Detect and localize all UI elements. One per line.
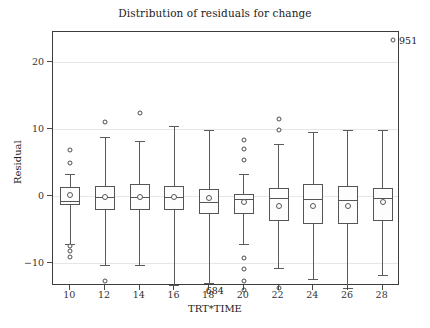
box-plot-group [53,32,398,284]
x-axis-label: TRT*TIME [0,303,430,314]
mean-marker [380,199,386,205]
x-tick-label: 14 [133,289,145,300]
whisker-cap-lower [169,285,179,286]
whisker-cap-lower [378,275,388,276]
y-tick-label: −10 [14,256,44,267]
whisker-cap-upper [378,130,388,131]
x-tick-label: 28 [376,289,388,300]
chart-figure: Distribution of residuals for change Res… [0,0,430,328]
annotation-label: 951 [399,35,417,46]
chart-title: Distribution of residuals for change [0,7,430,19]
x-tick-label: 22 [272,289,284,300]
y-axis-label: Residual [12,140,23,184]
y-tick-label: 10 [14,122,44,133]
x-tick-label: 26 [341,289,353,300]
x-tick-label: 18 [202,289,214,300]
y-tick-label: 0 [14,189,44,200]
x-tick-label: 10 [63,289,75,300]
y-tick-mark [47,61,52,62]
annotation-marker [391,38,396,43]
y-tick-label: 20 [14,56,44,67]
y-tick-mark [47,195,52,196]
y-tick-mark [47,128,52,129]
x-tick-label: 20 [237,289,249,300]
plot-area: 684951 [52,31,399,285]
x-tick-label: 24 [306,289,318,300]
x-tick-label: 16 [167,289,179,300]
y-tick-mark [47,262,52,263]
x-tick-label: 12 [98,289,110,300]
